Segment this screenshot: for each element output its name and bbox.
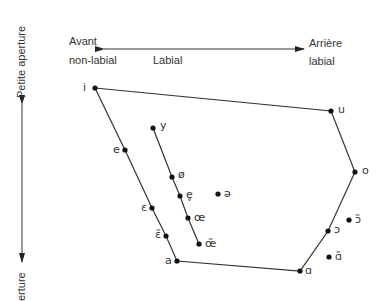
vowel-dot-o-slash [169,174,174,179]
front-label: Avant [69,35,97,47]
vowel-label-oe: œ [194,212,205,224]
vowel-label-nasal-open-o: ɔ̃ [355,214,361,226]
vowel-dot-open-o [325,228,330,233]
vowel-dot-y [150,125,155,130]
vowel-dot-nasal-oe [196,241,201,246]
back-label: Arrière [309,37,342,49]
rounded-front-line [153,128,199,244]
vowel-label-open-o: ɔ [334,224,340,236]
small-aperture-label: Petite aperture [15,26,27,98]
vowel-dot-nasal-epsilon [163,233,168,238]
large-aperture-label: erture [15,272,27,301]
vowel-dot-nasal-back-a [326,254,331,259]
vowel-label-schwa: ə [224,188,231,200]
front-sub-label: non-labial [69,54,117,66]
vowel-dot-e-ring [177,193,182,198]
vowel-label-o-slash: ø [178,169,185,181]
vowel-outline [95,88,355,271]
vowel-label-e-ring: e̥ [186,189,193,201]
vowel-dot-nasal-open-o [346,217,351,222]
vowel-label-nasal-oe: œ̃ [205,238,216,250]
vowel-dot-epsilon [149,205,154,210]
vowel-label-u: u [338,104,345,116]
vowel-dot-a [174,258,179,263]
vowel-label-back-a: ɑ [305,265,312,277]
vowel-dot-u [328,108,333,113]
vowel-dot-schwa [215,191,220,196]
vowel-label-epsilon: ɛ [141,202,147,214]
vowel-label-i: i [83,82,86,94]
back-sub-label: labial [309,55,335,67]
vowel-dot-e [122,147,127,152]
vowel-label-y: y [160,120,167,132]
vowel-dot-back-a [297,268,302,273]
vowel-label-nasal-back-a: ɑ̃ [335,251,342,263]
vowel-label-a: a [165,255,172,267]
vowel-label-nasal-epsilon: ɛ̃ [155,229,161,241]
vowel-dot-o [352,169,357,174]
vowel-label-e: e [113,144,120,156]
vowel-label-o: o [362,165,369,177]
labial-label: Labial [153,54,182,66]
vowel-dot-oe [185,215,190,220]
vowel-dot-i [92,85,97,90]
